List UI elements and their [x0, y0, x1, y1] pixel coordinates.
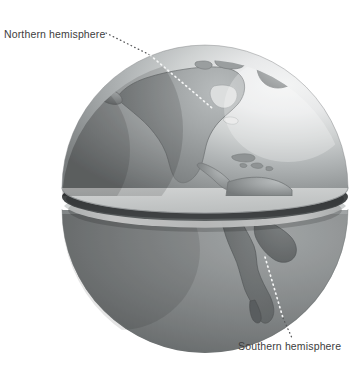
- iceland: [317, 63, 344, 74]
- northern-hemisphere-dome: [26, 34, 352, 226]
- figure-canvas: Northern hemisphere Southern hemisphere: [0, 0, 353, 366]
- jamaica: [240, 164, 247, 168]
- globe-illustration: [0, 0, 353, 366]
- label-southern-hemisphere: Southern hemisphere: [238, 340, 341, 352]
- puerto-rico: [266, 167, 273, 171]
- label-northern-hemisphere: Northern hemisphere: [4, 28, 105, 40]
